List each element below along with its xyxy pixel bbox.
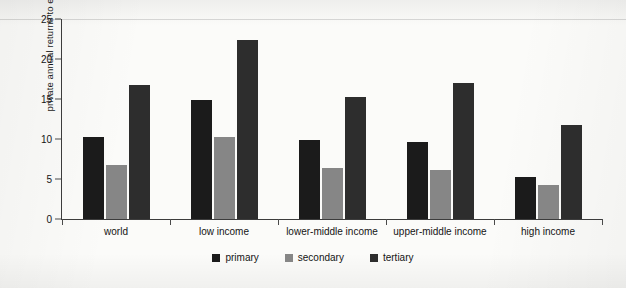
- bar-tertiary[interactable]: [237, 40, 258, 219]
- bar-tertiary[interactable]: [345, 97, 366, 219]
- legend-item-primary[interactable]: primary: [212, 252, 258, 263]
- bar-primary[interactable]: [191, 100, 212, 219]
- chart-legend: primarysecondarytertiary: [0, 252, 626, 263]
- y-tick-label: 25: [30, 14, 52, 25]
- plot-area: [62, 19, 602, 219]
- legend-label: tertiary: [383, 252, 414, 263]
- x-tick-mark: [602, 219, 603, 225]
- legend-label: secondary: [298, 252, 344, 263]
- x-category-label: low income: [199, 226, 249, 237]
- bar-group: [191, 19, 258, 219]
- bar-secondary[interactable]: [430, 170, 451, 219]
- x-tick-mark: [62, 219, 63, 225]
- y-axis-tick-labels: 0510152025: [30, 0, 52, 288]
- y-tick-label: 15: [30, 94, 52, 105]
- x-axis-line: [61, 219, 602, 220]
- bar-secondary[interactable]: [214, 137, 235, 219]
- x-tick-mark: [386, 219, 387, 225]
- y-tick-mark: [55, 139, 61, 140]
- bar-secondary[interactable]: [106, 165, 127, 219]
- legend-swatch-icon: [285, 254, 293, 262]
- bar-primary[interactable]: [299, 140, 320, 219]
- bar-primary[interactable]: [407, 142, 428, 219]
- x-tick-mark: [494, 219, 495, 225]
- y-tick-mark: [55, 179, 61, 180]
- bar-chart: private annual returns to education, % 0…: [0, 0, 626, 288]
- y-axis-title-container: private annual returns to education, %: [14, 10, 28, 220]
- bar-primary[interactable]: [83, 137, 104, 219]
- x-tick-mark: [170, 219, 171, 225]
- x-category-label: upper-middle income: [393, 226, 486, 237]
- y-tick-mark: [55, 59, 61, 60]
- bar-secondary[interactable]: [538, 185, 559, 219]
- y-tick-label: 0: [30, 214, 52, 225]
- x-tick-mark: [278, 219, 279, 225]
- x-category-label: high income: [521, 226, 575, 237]
- y-tick-label: 5: [30, 174, 52, 185]
- bar-secondary[interactable]: [322, 168, 343, 219]
- bar-tertiary[interactable]: [561, 125, 582, 219]
- legend-label: primary: [225, 252, 258, 263]
- bar-tertiary[interactable]: [453, 83, 474, 219]
- bar-primary[interactable]: [515, 177, 536, 219]
- bar-group: [83, 19, 150, 219]
- y-tick-label: 10: [30, 134, 52, 145]
- legend-swatch-icon: [212, 254, 220, 262]
- legend-item-tertiary[interactable]: tertiary: [370, 252, 414, 263]
- y-tick-mark: [55, 219, 61, 220]
- y-tick-label: 20: [30, 54, 52, 65]
- bar-tertiary[interactable]: [129, 85, 150, 219]
- bar-group: [407, 19, 474, 219]
- x-category-label: lower-middle income: [286, 226, 378, 237]
- x-category-label: world: [104, 226, 128, 237]
- bar-group: [299, 19, 366, 219]
- legend-item-secondary[interactable]: secondary: [285, 252, 344, 263]
- y-tick-mark: [55, 99, 61, 100]
- y-tick-mark: [55, 19, 61, 20]
- bar-group: [515, 19, 582, 219]
- legend-swatch-icon: [370, 254, 378, 262]
